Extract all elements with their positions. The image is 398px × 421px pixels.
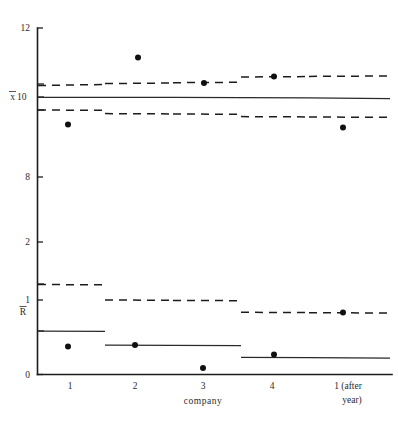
x-label-4: 4 xyxy=(270,381,275,391)
x-label-3: 3 xyxy=(201,381,206,391)
r-point-3 xyxy=(200,365,206,371)
xbar-ucl-group xyxy=(38,76,390,86)
x-label-2: 2 xyxy=(133,381,138,391)
xbar-ucl-segment-1 xyxy=(38,85,105,86)
r-point-2 xyxy=(132,342,138,348)
y-label-1: 1 xyxy=(25,295,30,305)
y-label-xbar-symbol: x xyxy=(10,92,15,102)
y-label-2: 2 xyxy=(25,237,30,247)
y-label-xbar-value: 10 xyxy=(17,92,27,102)
y-label-12: 12 xyxy=(21,23,31,33)
xbar-point-3 xyxy=(201,80,207,86)
r-center-line-group xyxy=(38,331,390,358)
axis-group xyxy=(38,28,393,375)
xbar-point-2 xyxy=(135,55,141,61)
control-chart-figure: 12 x 10 8 2 1 R 0 xyxy=(0,0,398,421)
x-label-5-line1: 1 (after xyxy=(334,381,363,392)
x-axis-caption: company xyxy=(184,396,222,406)
y-label-rbar-symbol: R xyxy=(20,307,27,317)
xbar-point-4 xyxy=(271,74,277,80)
chart-plot-area: 12 x 10 8 2 1 R 0 xyxy=(0,0,398,421)
x-label-1: 1 xyxy=(68,381,73,391)
y-label-rbar-group: R xyxy=(20,307,27,318)
xbar-data-points xyxy=(65,55,346,131)
xbar-ucl-segment-2 xyxy=(105,83,173,84)
xbar-point-5 xyxy=(340,125,346,131)
xbar-center-line-group xyxy=(38,97,390,98)
x-label-5-line2: year) xyxy=(342,395,362,406)
xbar-point-1 xyxy=(65,122,71,128)
y-tick-labels: 12 x 10 8 2 1 R 0 xyxy=(9,23,30,380)
r-point-1 xyxy=(65,344,71,350)
r-point-4 xyxy=(271,352,277,358)
y-tick-marks xyxy=(38,28,45,375)
xbar-lcl-group xyxy=(38,110,390,117)
xbar-center-line xyxy=(38,97,390,98)
y-label-8: 8 xyxy=(25,172,30,182)
r-data-points xyxy=(65,310,346,372)
y-label-0: 0 xyxy=(25,370,30,380)
r-point-5 xyxy=(340,310,346,316)
r-ucl-group xyxy=(38,285,390,314)
y-label-xbar10-group: x 10 xyxy=(9,92,27,103)
